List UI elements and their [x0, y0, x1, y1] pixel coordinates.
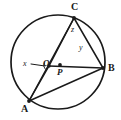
vertex-label-C: C [71, 2, 78, 12]
geometry-figure-svg [0, 0, 121, 120]
point-label-P: P [57, 68, 63, 77]
angle-label-y: y [79, 44, 83, 52]
segment-A-to-B [29, 68, 103, 101]
angle-label-x: x [23, 60, 27, 68]
angle-label-z: z [71, 26, 74, 34]
vertex-dot-B [101, 66, 105, 70]
point-label-O: O [43, 59, 50, 68]
geometry-diagram: C B A O P x z y [0, 0, 121, 120]
vertex-label-A: A [21, 104, 28, 114]
vertex-label-B: B [108, 63, 115, 73]
vertex-dot-C [72, 16, 76, 20]
